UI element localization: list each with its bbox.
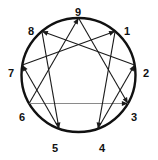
vertex-label-9: 9 — [75, 7, 81, 18]
vertex-label-6: 6 — [19, 112, 25, 123]
vertex-label-2: 2 — [143, 68, 149, 79]
enneagram-svg — [0, 0, 158, 160]
vertex-label-5: 5 — [52, 143, 58, 154]
vertex-label-8: 8 — [28, 26, 34, 37]
outer-circle — [22, 18, 136, 132]
hexad-group — [22, 31, 134, 128]
vertex-label-7: 7 — [8, 68, 14, 79]
enneagram-figure: 912345678 — [0, 0, 158, 160]
circle-group — [22, 18, 136, 132]
vertex-label-1: 1 — [124, 26, 130, 37]
vertex-label-4: 4 — [99, 143, 105, 154]
vertex-label-3: 3 — [131, 112, 137, 123]
